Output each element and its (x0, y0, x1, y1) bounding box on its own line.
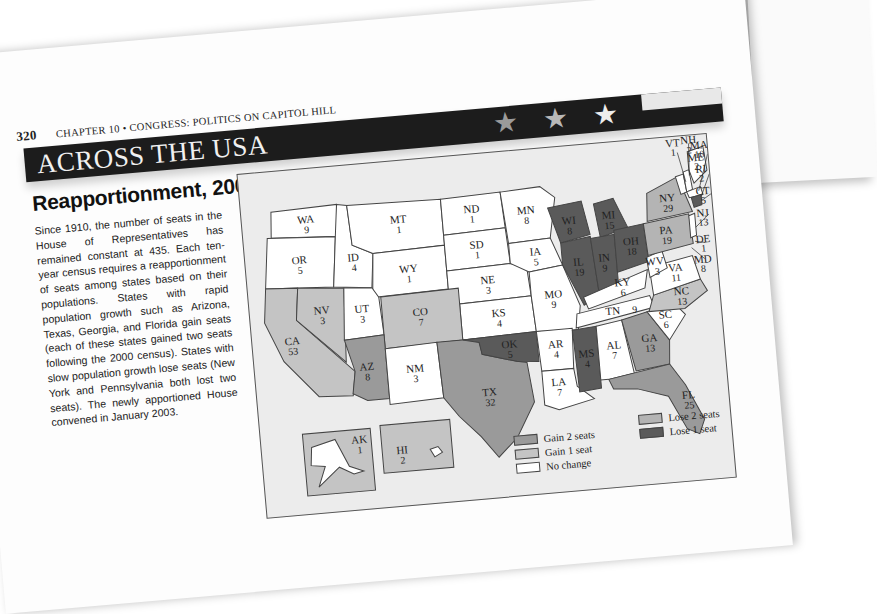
seats-PA: 19 (661, 234, 672, 246)
seats-VA: 11 (671, 272, 682, 284)
hawaii-inset (380, 419, 454, 473)
seats-AR: 4 (553, 349, 559, 360)
book-page: 320 CHAPTER 10 • CONGRESS: POLITICS ON C… (0, 0, 793, 614)
seats-IL: 19 (574, 266, 585, 278)
seats-VT: 1 (670, 147, 676, 158)
legend-label: Lose 1 seat (669, 422, 717, 437)
seats-WA: 9 (304, 224, 310, 235)
seats-WY: 1 (406, 273, 412, 284)
seats-UT: 3 (360, 313, 366, 324)
seats-OK: 5 (507, 349, 513, 360)
flag-stripe (641, 87, 722, 110)
seats-CO: 7 (418, 316, 424, 327)
seats-NY: 29 (663, 202, 674, 214)
body-paragraph: Since 1910, the number of seats in the H… (34, 207, 239, 430)
seats-IN: 9 (602, 262, 608, 273)
seats-OR: 5 (297, 265, 303, 276)
seats-MD: 8 (700, 262, 706, 273)
reapportionment-map: WA9 OR5 ID4 MT1 WY1 ND1 SD1 NE3 MN8 IA5 … (236, 133, 736, 519)
seats-NJ: 13 (698, 216, 709, 228)
seats-HI: 2 (400, 454, 406, 465)
seats-MS: 4 (584, 358, 590, 369)
seats-NE: 3 (486, 284, 492, 295)
seats-TX: 32 (485, 396, 496, 408)
star-icon: ★ (591, 97, 619, 133)
seats-LA: 7 (557, 386, 563, 397)
swatch-lose1 (639, 427, 664, 439)
seats-MT: 1 (396, 224, 402, 235)
seats-AL: 7 (612, 350, 618, 361)
swatch-gain1 (515, 448, 540, 460)
seats-SD: 1 (474, 249, 480, 260)
seats-KS: 4 (497, 317, 503, 328)
seats-CT: 5 (701, 194, 707, 205)
us-map: WA9 OR5 ID4 MT1 WY1 ND1 SD1 NE3 MN8 IA5 … (238, 134, 736, 518)
star-icon: ★ (492, 105, 520, 141)
swatch-no-change (516, 462, 541, 474)
swatch-gain2 (513, 434, 538, 446)
seats-WI: 8 (567, 225, 573, 236)
star-icon: ★ (541, 101, 569, 137)
seats-RI: 2 (699, 172, 705, 183)
page-number: 320 (16, 127, 38, 144)
swatch-lose2 (638, 413, 663, 425)
seats-IA: 5 (533, 256, 539, 267)
seats-ND: 1 (469, 213, 475, 224)
seats-ID: 4 (351, 262, 357, 273)
seats-MI: 15 (604, 219, 615, 231)
seats-NM: 3 (413, 373, 419, 384)
label-TN: TN (605, 304, 621, 317)
seats-GA: 13 (645, 342, 656, 354)
adjacent-page-edge (747, 0, 877, 183)
seats-MA: 10 (694, 148, 705, 160)
seats-SC: 6 (663, 319, 669, 330)
seats-NV: 3 (320, 315, 326, 326)
seats-TN: 9 (632, 304, 638, 315)
seats-AK: 1 (357, 444, 363, 455)
seats-KY: 6 (620, 287, 626, 298)
seats-WV: 3 (655, 266, 661, 277)
seats-NC: 13 (677, 295, 688, 307)
legend-left: Gain 2 seats Gain 1 seat No change (513, 427, 598, 476)
seats-CA: 53 (288, 345, 299, 357)
seats-AZ: 8 (365, 371, 371, 382)
seats-MN: 8 (524, 215, 530, 226)
seats-OH: 18 (626, 245, 637, 257)
seats-MO: 9 (551, 299, 557, 310)
legend-label: No change (546, 457, 592, 472)
